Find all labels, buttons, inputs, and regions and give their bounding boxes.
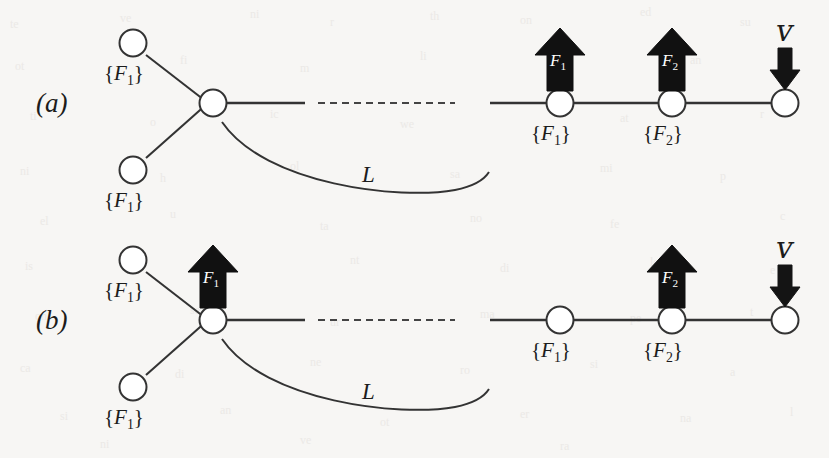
- panel-a-edge-bottom-branch: [146, 103, 208, 158]
- set-symbol-f: F: [114, 61, 127, 85]
- panel-a-graphics: [120, 28, 801, 193]
- set-symbol-f: F: [114, 405, 127, 429]
- set-symbol-f: F: [114, 188, 127, 212]
- set-symbol-f: F: [541, 338, 554, 362]
- panel-b-branch-bottom-label: {F1}: [104, 407, 144, 432]
- panel-a-node-junction: [200, 90, 227, 117]
- panel-b-branch-top-label: {F1}: [104, 280, 144, 305]
- panel-a-velocity-arrow-icon: [770, 48, 800, 90]
- panel-a-node-chain-1: [547, 90, 574, 117]
- set-subscript: 1: [127, 290, 134, 305]
- panel-a-chain-2-label: {F2}: [643, 123, 683, 148]
- panel-a-branch-bottom-label: {F1}: [104, 190, 144, 215]
- set-subscript: 1: [127, 200, 134, 215]
- figure-root: teveni rthon edsu otfim lidean tioic wea…: [0, 0, 829, 458]
- panel-a-branch-top-label: {F1}: [104, 63, 144, 88]
- panel-b-node-chain-2: [659, 307, 686, 334]
- panel-b-velocity-arrow-icon: [770, 265, 800, 307]
- panel-a-node-branch-top: [120, 30, 147, 57]
- panel-a-chain-1-label: {F1}: [531, 123, 571, 148]
- panel-a-edge-top-branch: [146, 55, 208, 103]
- panel-a-curve-label: L: [362, 163, 375, 186]
- panel-b-force-arrow-f2-label: F2: [662, 269, 678, 290]
- set-subscript: 1: [554, 350, 561, 365]
- panel-a-node-branch-bottom: [120, 157, 147, 184]
- panel-a-node-chain-2: [659, 90, 686, 117]
- panel-b-edge-bottom-branch: [146, 320, 208, 375]
- set-symbol-f: F: [541, 121, 554, 145]
- set-subscript: 2: [666, 133, 673, 148]
- panel-a-node-chain-3: [772, 90, 799, 117]
- panel-b-node-branch-bottom: [120, 374, 147, 401]
- panel-b-node-chain-1: [547, 307, 574, 334]
- panel-b-node-branch-top: [120, 247, 147, 274]
- panel-a-label: (a): [36, 90, 67, 117]
- panel-a-force-arrow-f1-label: F1: [550, 52, 566, 73]
- panel-b-length-curve: [222, 339, 489, 410]
- panel-b-node-chain-3: [772, 307, 799, 334]
- panel-b-velocity-label: ᴠ: [776, 233, 793, 263]
- panel-b-edge-top-branch: [146, 272, 208, 320]
- panel-b-label: (b): [36, 307, 67, 334]
- set-subscript: 1: [127, 417, 134, 432]
- set-symbol-f: F: [114, 278, 127, 302]
- panel-b-graphics: [120, 245, 801, 410]
- set-subscript: 2: [666, 350, 673, 365]
- set-subscript: 1: [127, 73, 134, 88]
- panel-a-length-curve: [222, 122, 489, 193]
- set-symbol-f: F: [653, 338, 666, 362]
- panel-b-chain-2-label: {F2}: [643, 340, 683, 365]
- set-subscript: 1: [554, 133, 561, 148]
- panel-a-velocity-label: ᴠ: [776, 16, 793, 46]
- panel-b-curve-label: L: [362, 380, 375, 403]
- panel-b-force-arrow-f1-label: F1: [203, 269, 219, 290]
- panel-a-force-arrow-f2-label: F2: [662, 52, 678, 73]
- panel-b-chain-1-label: {F1}: [531, 340, 571, 365]
- set-symbol-f: F: [653, 121, 666, 145]
- panel-b-node-junction: [200, 307, 227, 334]
